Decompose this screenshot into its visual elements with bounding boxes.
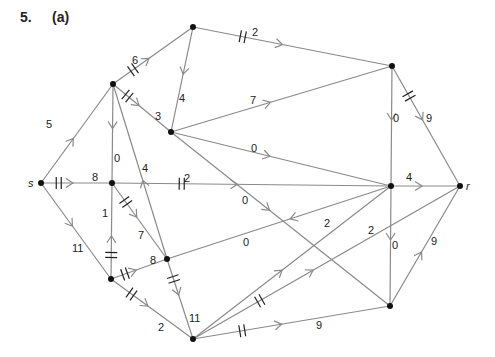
flow-label: 2 xyxy=(368,224,374,236)
flow-label: 9 xyxy=(316,319,322,331)
edge-F-r xyxy=(391,182,460,191)
flow-label: 0 xyxy=(393,112,399,124)
edge-G-E xyxy=(105,183,117,279)
edge-A-B xyxy=(113,27,193,84)
flow-label: 8 xyxy=(150,254,156,266)
flow-label: 9 xyxy=(431,235,437,247)
edge-I-F xyxy=(193,186,391,339)
node-s xyxy=(38,180,44,186)
flow-label: 4 xyxy=(406,171,412,183)
edge-A-C xyxy=(113,84,171,132)
node-H xyxy=(164,256,170,262)
edge-C-F xyxy=(171,132,391,186)
node-D xyxy=(389,63,395,69)
edge-B-D xyxy=(193,27,392,66)
edge-C-J xyxy=(171,132,390,306)
node-label-s: s xyxy=(28,177,34,189)
edge-H-I xyxy=(167,259,193,339)
flow-label: 8 xyxy=(92,171,98,183)
flow-label: 6 xyxy=(132,54,138,66)
node-G xyxy=(108,276,114,282)
edge-D-F xyxy=(387,66,396,186)
edge-G-H xyxy=(111,259,167,280)
node-J xyxy=(387,303,393,309)
flow-label: 7 xyxy=(250,94,256,106)
edge-E-H xyxy=(112,183,167,259)
node-r xyxy=(457,183,463,189)
flow-label: 11 xyxy=(189,312,200,324)
flow-label: 0 xyxy=(251,142,257,154)
flow-label: 7 xyxy=(138,229,144,241)
flow-label: 0 xyxy=(243,236,249,248)
flow-label: 11 xyxy=(72,242,83,254)
edge-A-E xyxy=(108,84,117,183)
flow-label: 5 xyxy=(46,118,52,130)
edge-s-A xyxy=(41,84,113,183)
flow-label: 2 xyxy=(324,217,330,229)
edges-layer xyxy=(41,27,460,339)
flow-label: 2 xyxy=(158,321,164,333)
flow-label: 9 xyxy=(426,112,432,124)
edge-s-E xyxy=(41,177,112,189)
flow-label: 4 xyxy=(142,162,148,174)
edge-C-D xyxy=(171,66,392,132)
node-E xyxy=(109,180,115,186)
edge-D-r xyxy=(392,66,460,186)
flow-label: 2 xyxy=(252,26,258,38)
edge-E-F xyxy=(112,178,391,190)
node-B xyxy=(190,24,196,30)
flow-network-diagram: 58116304427000927140082112299 sr xyxy=(0,0,495,357)
flow-labels-layer: 58116304427000927140082112299 xyxy=(46,26,437,333)
edge-J-r xyxy=(390,186,460,306)
flow-label: 3 xyxy=(155,110,161,122)
node-I xyxy=(190,336,196,342)
flow-label: 0 xyxy=(242,194,248,206)
edge-B-C xyxy=(171,27,193,132)
flow-label: 2 xyxy=(184,172,190,184)
node-C xyxy=(168,129,174,135)
edge-F-H xyxy=(167,186,391,259)
flow-label: 4 xyxy=(179,92,185,104)
node-F xyxy=(388,183,394,189)
node-label-r: r xyxy=(466,180,471,192)
edge-s-G xyxy=(41,183,111,279)
flow-label: 1 xyxy=(102,207,108,219)
flow-label: 0 xyxy=(114,152,120,164)
node-A xyxy=(110,81,116,87)
flow-label: 0 xyxy=(392,239,398,251)
